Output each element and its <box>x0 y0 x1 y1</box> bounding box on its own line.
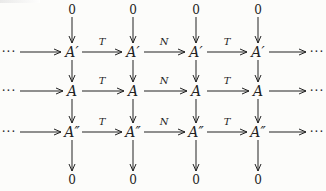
arrows-layer <box>0 0 326 191</box>
node-zero-bottom-3: 0 <box>192 174 200 186</box>
ellipsis-right-row3: ··· <box>310 126 324 138</box>
node-a-prime-3: A′ <box>189 45 202 59</box>
node-zero-top-1: 0 <box>68 4 76 16</box>
ellipsis-right-row2: ··· <box>310 85 324 97</box>
arrow-label-t: T <box>224 117 231 127</box>
node-zero-bottom-2: 0 <box>129 174 137 186</box>
node-a-double-prime-4: A″ <box>250 125 265 139</box>
arrow-label-t: T <box>99 76 106 86</box>
node-a-double-prime-1: A″ <box>64 125 79 139</box>
node-a-prime-2: A′ <box>126 45 139 59</box>
node-a-prime-4: A′ <box>251 45 264 59</box>
arrow-label-n: N <box>160 37 169 47</box>
node-zero-top-4: 0 <box>254 4 262 16</box>
arrow-label-t: T <box>99 117 106 127</box>
arrow-label-t: T <box>99 37 106 47</box>
arrow-label-t: T <box>224 37 231 47</box>
node-a-1: A <box>67 84 77 98</box>
arrow-label-n: N <box>160 117 169 127</box>
node-zero-top-3: 0 <box>192 4 200 16</box>
ellipsis-left-row3: ··· <box>2 126 16 138</box>
node-a-double-prime-3: A″ <box>188 125 203 139</box>
node-a-prime-1: A′ <box>65 45 78 59</box>
ellipsis-left-row2: ··· <box>2 85 16 97</box>
node-a-double-prime-2: A″ <box>125 125 140 139</box>
arrow-label-n: N <box>160 76 169 86</box>
node-zero-bottom-4: 0 <box>254 174 262 186</box>
ellipsis-right-row1: ··· <box>310 46 324 58</box>
node-zero-bottom-1: 0 <box>68 174 76 186</box>
arrow-label-t: T <box>224 76 231 86</box>
node-zero-top-2: 0 <box>129 4 137 16</box>
node-a-2: A <box>128 84 138 98</box>
node-a-4: A <box>253 84 263 98</box>
node-a-3: A <box>191 84 201 98</box>
ellipsis-left-row1: ··· <box>2 46 16 58</box>
